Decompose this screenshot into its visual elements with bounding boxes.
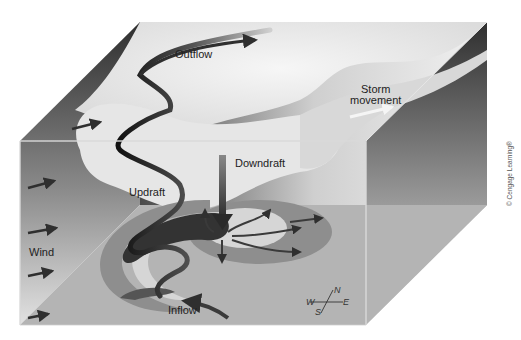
label-storm-movement-line2: movement <box>350 94 401 106</box>
downdraft-shaft <box>219 155 226 220</box>
label-wind: Wind <box>29 246 54 258</box>
compass-e: E <box>343 297 350 307</box>
label-updraft: Updraft <box>129 186 165 198</box>
label-outflow: Outflow <box>175 48 212 60</box>
compass-n: N <box>334 285 341 295</box>
supercell-diagram: Outflow Storm movement Downdraft Updraft… <box>0 0 521 340</box>
copyright-notice: © Cengage Learning® <box>506 141 514 206</box>
compass-s: S <box>315 307 321 317</box>
label-inflow: Inflow <box>168 304 197 316</box>
label-downdraft: Downdraft <box>235 157 285 169</box>
